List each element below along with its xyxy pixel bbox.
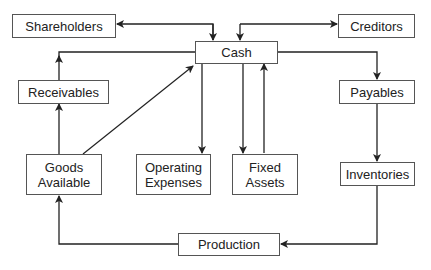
node-fixed-assets: Fixed Assets — [232, 154, 298, 195]
node-production: Production — [178, 233, 280, 256]
node-goods-available: Goods Available — [26, 154, 102, 195]
node-shareholders: Shareholders — [12, 14, 116, 38]
node-inventories: Inventories — [340, 162, 415, 186]
node-cash: Cash — [195, 41, 278, 64]
node-operating-expenses: Operating Expenses — [136, 154, 211, 195]
node-payables: Payables — [339, 80, 415, 104]
arrow-cash-to-payables — [278, 52, 377, 79]
arrow-production-to-goods — [59, 196, 178, 244]
node-creditors: Creditors — [338, 14, 415, 38]
line-receivables-to-cash — [59, 52, 195, 80]
arrow-cash-to-shareholders — [117, 24, 213, 40]
node-receivables: Receivables — [18, 80, 109, 104]
